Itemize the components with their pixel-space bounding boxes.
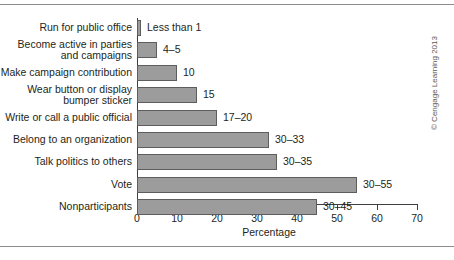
x-axis-title-text: Percentage [242,226,296,238]
bar [137,42,157,58]
bar-row: 4–5 [137,42,417,58]
bar-value-label: 30–35 [283,155,312,167]
category-label: Vote [111,179,132,190]
category-label: Wear button or display bumper sticker [27,84,132,106]
bar-row: 15 [137,87,417,103]
category-label: Belong to an organization [13,134,132,145]
bar-row: 10 [137,65,417,81]
top-divider-rule [0,4,454,5]
bar-row: 30–55 [137,177,417,193]
bar [137,65,177,81]
bottom-divider-rule [0,246,454,247]
bar-row: 17–20 [137,110,417,126]
bar-row: 30–33 [137,132,417,148]
x-axis-title: Percentage [0,226,454,238]
bar-value-label: 30–55 [363,178,392,190]
bar-value-label: 30–33 [275,133,304,145]
bar-row: 30–45 [137,199,417,215]
bar [137,132,269,148]
category-label: Nonparticipants [59,201,132,212]
bar-value-label: Less than 1 [147,21,201,33]
bar-value-label: 4–5 [163,43,181,55]
bar-value-label: 30–45 [323,200,352,212]
bar [137,20,141,36]
copyright-credit: © Cengage Learning 2013 [430,36,439,130]
category-label: Make campaign contribution [1,67,132,78]
bar [137,177,357,193]
bar-value-label: 10 [183,66,195,78]
bar [137,110,217,126]
x-tick-70 [417,205,418,210]
bar-row: Less than 1 [137,20,417,36]
plot-area: 010203040506070 Less than 14–5101517–203… [137,18,417,204]
bar-row: 30–35 [137,154,417,170]
category-label: Run for public office [39,22,132,33]
bar-value-label: 15 [203,88,215,100]
category-label: Write or call a public official [5,112,132,123]
category-label: Become active in parties and campaigns [18,39,132,61]
figure-container: Run for public officeBecome active in pa… [0,0,454,260]
category-label: Talk politics to others [35,156,132,167]
bar-value-label: 17–20 [223,111,252,123]
bar [137,199,317,215]
bar [137,154,277,170]
bar [137,87,197,103]
